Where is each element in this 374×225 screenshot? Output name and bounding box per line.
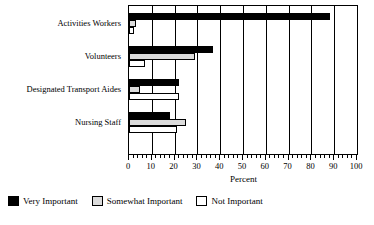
- legend-swatch-not-important: [196, 196, 207, 206]
- bar: [129, 53, 195, 60]
- tick-minor: [178, 155, 179, 158]
- bar: [129, 20, 136, 27]
- tick-minor: [283, 155, 284, 158]
- x-tick-label: 0: [116, 161, 140, 171]
- tick-minor: [133, 155, 134, 158]
- bar: [129, 79, 179, 86]
- tick-minor: [292, 155, 293, 158]
- x-tick-label: 80: [298, 161, 322, 171]
- x-tick-label: 10: [139, 161, 163, 171]
- category-label: Activities Workers: [57, 19, 121, 28]
- tick-minor: [228, 155, 229, 158]
- tick-minor: [269, 155, 270, 158]
- bar: [129, 86, 140, 93]
- tick-minor: [347, 155, 348, 158]
- tick-major: [219, 155, 220, 160]
- category-axis-labels: Activities WorkersVolunteersDesignated T…: [0, 5, 125, 155]
- x-tick-label: 90: [321, 161, 345, 171]
- tick-minor: [224, 155, 225, 158]
- tick-minor: [146, 155, 147, 158]
- tick-minor: [215, 155, 216, 158]
- tick-minor: [137, 155, 138, 158]
- legend-swatch-very-important: [8, 196, 19, 206]
- tick-minor: [201, 155, 202, 158]
- tick-major: [333, 155, 334, 160]
- tick-minor: [315, 155, 316, 158]
- tick-minor: [237, 155, 238, 158]
- tick-minor: [160, 155, 161, 158]
- tick-major: [310, 155, 311, 160]
- bar: [129, 13, 330, 20]
- x-axis-title: Percent: [128, 174, 359, 184]
- bar: [129, 27, 134, 34]
- x-tick-label: 30: [184, 161, 208, 171]
- tick-minor: [256, 155, 257, 158]
- tick-major: [196, 155, 197, 160]
- tick-major: [288, 155, 289, 160]
- legend-item-very-important: Very Important: [8, 196, 78, 206]
- tick-major: [151, 155, 152, 160]
- tick-minor: [342, 155, 343, 158]
- x-tick-label: 100: [344, 161, 368, 171]
- tick-minor: [192, 155, 193, 158]
- tick-minor: [274, 155, 275, 158]
- tick-minor: [329, 155, 330, 158]
- x-tick-label: 60: [253, 161, 277, 171]
- legend-swatch-somewhat-important: [92, 196, 103, 206]
- bar: [129, 60, 145, 67]
- tick-minor: [351, 155, 352, 158]
- tick-minor: [306, 155, 307, 158]
- legend-label-very-important: Very Important: [23, 196, 78, 206]
- tick-major: [242, 155, 243, 160]
- bar: [129, 93, 179, 100]
- bar: [129, 126, 177, 133]
- category-label: Volunteers: [85, 52, 121, 61]
- tick-minor: [324, 155, 325, 158]
- tick-minor: [260, 155, 261, 158]
- tick-minor: [251, 155, 252, 158]
- x-tick-label: 20: [162, 161, 186, 171]
- bars-layer: [129, 6, 357, 154]
- tick-major: [174, 155, 175, 160]
- tick-minor: [155, 155, 156, 158]
- x-tick-label: 40: [207, 161, 231, 171]
- tick-minor: [142, 155, 143, 158]
- tick-minor: [338, 155, 339, 158]
- tick-minor: [206, 155, 207, 158]
- tick-minor: [183, 155, 184, 158]
- tick-major: [265, 155, 266, 160]
- tick-minor: [210, 155, 211, 158]
- category-label: Designated Transport Aides: [27, 85, 121, 94]
- legend-item-not-important: Not Important: [196, 196, 262, 206]
- tick-major: [128, 155, 129, 160]
- tick-minor: [301, 155, 302, 158]
- x-tick-label: 50: [230, 161, 254, 171]
- legend-label-not-important: Not Important: [211, 196, 262, 206]
- tick-minor: [164, 155, 165, 158]
- tick-minor: [297, 155, 298, 158]
- tick-minor: [278, 155, 279, 158]
- legend: Very Important Somewhat Important Not Im…: [8, 196, 271, 206]
- tick-minor: [320, 155, 321, 158]
- bar: [129, 119, 186, 126]
- category-label: Nursing Staff: [75, 118, 121, 127]
- tick-major: [356, 155, 357, 160]
- bar: [129, 46, 213, 53]
- tick-minor: [233, 155, 234, 158]
- tick-minor: [187, 155, 188, 158]
- tick-minor: [247, 155, 248, 158]
- legend-label-somewhat-important: Somewhat Important: [107, 196, 183, 206]
- x-axis-tick-labels: 0102030405060708090100: [0, 161, 374, 173]
- bar: [129, 112, 170, 119]
- tick-minor: [169, 155, 170, 158]
- bar-chart: Activities WorkersVolunteersDesignated T…: [0, 0, 374, 225]
- legend-item-somewhat-important: Somewhat Important: [92, 196, 183, 206]
- x-tick-label: 70: [276, 161, 300, 171]
